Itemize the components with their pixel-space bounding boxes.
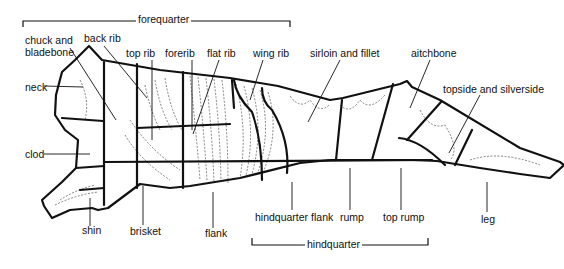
label-forerib: forerib (165, 47, 195, 59)
label-sirloin-and-fillet: sirloin and fillet (310, 47, 379, 59)
label-chuck-line1: chuck and (25, 34, 74, 46)
forequarter-label: forequarter (136, 13, 191, 25)
leader-lines (44, 46, 487, 228)
label-chuck-line2: bladebone (25, 46, 74, 58)
label-flat-rib: flat rib (207, 47, 236, 59)
label-leg: leg (481, 213, 495, 225)
label-rump: rump (340, 211, 364, 223)
label-brisket: brisket (130, 225, 161, 237)
label-top-rump: top rump (383, 211, 424, 223)
label-top-rib: top rib (126, 47, 155, 59)
label-topside-and-silverside: topside and silverside (443, 83, 544, 95)
label-hindquarter-flank: hindquarter flank (255, 211, 333, 223)
label-chuck-and-bladebone: chuck and bladebone (25, 34, 74, 58)
carcass-outline (42, 46, 564, 218)
label-back-rib: back rib (84, 32, 121, 44)
label-neck: neck (25, 81, 47, 93)
hindquarter-label: hindquarter (305, 238, 362, 250)
label-flank: flank (205, 227, 227, 239)
label-clod: clod (25, 148, 44, 160)
label-shin: shin (82, 224, 101, 236)
label-wing-rib: wing rib (253, 47, 289, 59)
label-aitchbone: aitchbone (411, 47, 457, 59)
